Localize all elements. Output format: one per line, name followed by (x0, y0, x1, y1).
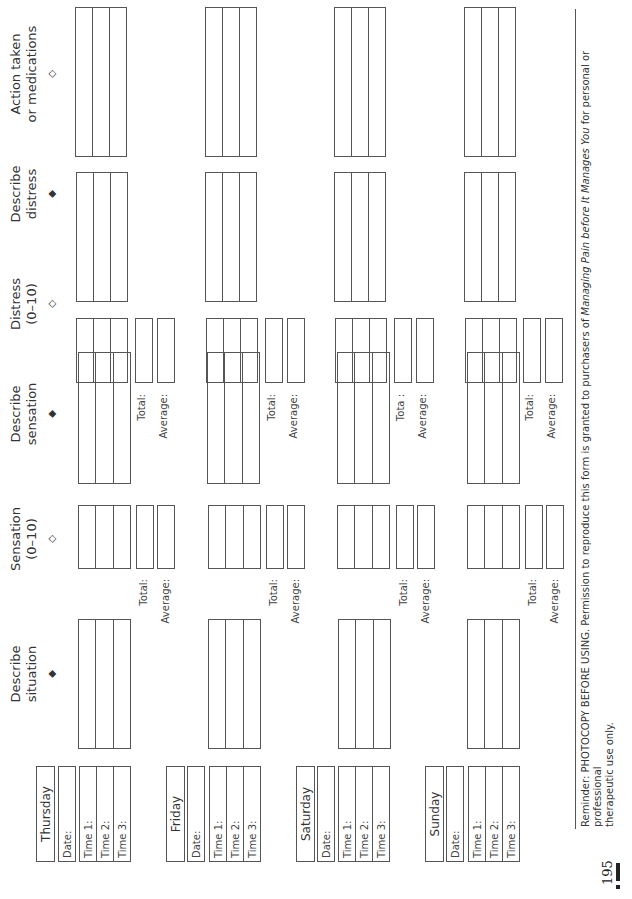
header-line1: Sensation (8, 499, 24, 579)
sensation-total-box[interactable] (525, 505, 543, 569)
distress-total-box[interactable] (394, 318, 412, 383)
time-fields: Time 1: Time 2: Time 3: (209, 766, 261, 862)
header-line1: Describe (8, 149, 24, 239)
sensation-total-label: Total: (138, 579, 149, 629)
date-field[interactable]: Date: (317, 766, 335, 862)
time-2-field[interactable]: Time 2: (485, 767, 502, 861)
describe-situation-boxes[interactable] (338, 619, 391, 749)
page-number: 195 (600, 860, 615, 885)
distress-total-label: Total: (266, 394, 277, 444)
footer-prefix: Reminder: PHOTOCOPY BEFORE USING. Permis… (580, 315, 591, 827)
sensation-total-label: Total: (268, 579, 279, 629)
page-marker-bar-icon (616, 863, 620, 881)
describe-distress-boxes[interactable] (334, 172, 386, 302)
header-line1: Describe (8, 629, 24, 719)
day-label: Friday (166, 766, 185, 862)
footer-notice: Reminder: PHOTOCOPY BEFORE USING. Permis… (580, 7, 616, 827)
distress-average-label: Average: (158, 394, 169, 444)
distress-total-box[interactable] (265, 318, 283, 383)
describe-distress-boxes[interactable] (205, 172, 257, 302)
distress-average-box[interactable] (545, 318, 563, 383)
time-3-field[interactable]: Time 3: (372, 767, 389, 861)
hollow-arrow-down-icon: ◇ (44, 499, 60, 579)
distress-total-label: Total: (136, 394, 147, 444)
action-taken-boxes[interactable] (205, 7, 257, 157)
day-label: Sunday (425, 766, 444, 862)
sensation-average-label: Average: (549, 579, 560, 629)
column-header-action-taken: Action taken or medications ◇ (8, 14, 60, 134)
solid-arrow-down-icon: ◆ (44, 629, 60, 719)
column-header-describe-sensation: Describe sensation ◆ (8, 369, 60, 459)
sensation-average-box[interactable] (287, 505, 305, 569)
action-taken-boxes[interactable] (334, 7, 386, 157)
distress-average-label: Average: (288, 394, 299, 444)
header-line2: (0–10) (24, 264, 40, 344)
describe-distress-boxes[interactable] (464, 172, 516, 302)
action-taken-boxes[interactable] (464, 7, 516, 157)
distress-total-label: Total: (524, 394, 535, 444)
distress-average-box[interactable] (416, 318, 434, 383)
sensation-total-label: Total: (527, 579, 538, 629)
time-fields: Time 1: Time 2: Time 3: (79, 766, 131, 862)
sensation-rating-boxes[interactable] (337, 505, 390, 569)
header-line1: Distress (8, 264, 24, 344)
hollow-arrow-down-icon: ◇ (44, 264, 60, 344)
time-fields: Time 1: Time 2: Time 3: (338, 766, 390, 862)
sensation-average-label: Average: (420, 579, 431, 629)
header-line2: or medications (24, 14, 40, 134)
time-2-field[interactable]: Time 2: (226, 767, 243, 861)
describe-situation-boxes[interactable] (208, 619, 261, 749)
distress-rating-boxes[interactable] (206, 318, 258, 383)
time-1-field[interactable]: Time 1: (210, 767, 226, 861)
distress-total-box[interactable] (135, 318, 153, 383)
header-line2: (0–10) (24, 499, 40, 579)
sensation-total-box[interactable] (266, 505, 284, 569)
distress-total-box[interactable] (523, 318, 541, 383)
distress-average-box[interactable] (287, 318, 305, 383)
distress-rating-boxes[interactable] (76, 318, 128, 383)
sensation-rating-boxes[interactable] (208, 505, 261, 569)
footer-line-1: Reminder: PHOTOCOPY BEFORE USING. Permis… (580, 7, 604, 827)
distress-rating-boxes[interactable] (335, 318, 387, 383)
distress-rating-boxes[interactable] (465, 318, 517, 383)
date-field[interactable]: Date: (58, 766, 76, 862)
describe-situation-boxes[interactable] (467, 619, 520, 749)
column-header-describe-situation: Describe situation ◆ (8, 629, 60, 719)
time-1-field[interactable]: Time 1: (80, 767, 96, 861)
sensation-average-box[interactable] (546, 505, 564, 569)
distress-average-box[interactable] (157, 318, 175, 383)
time-2-field[interactable]: Time 2: (96, 767, 113, 861)
time-3-field[interactable]: Time 3: (502, 767, 519, 861)
sensation-rating-boxes[interactable] (78, 505, 131, 569)
day-label: Saturday (296, 766, 315, 862)
describe-distress-boxes[interactable] (76, 172, 128, 302)
sensation-average-box[interactable] (157, 505, 175, 569)
distress-average-label: Average: (546, 394, 557, 444)
solid-arrow-down-icon: ◆ (44, 369, 60, 459)
sensation-total-box[interactable] (136, 505, 154, 569)
time-3-field[interactable]: Time 3: (113, 767, 130, 861)
header-line2: distress (24, 149, 40, 239)
date-field[interactable]: Date: (446, 766, 464, 862)
column-header-describe-distress: Describe distress ◆ (8, 149, 60, 239)
column-header-distress: Distress (0–10) ◇ (8, 264, 60, 344)
footer-divider (575, 9, 576, 829)
time-fields: Time 1: Time 2: Time 3: (468, 766, 520, 862)
action-taken-boxes[interactable] (75, 7, 127, 157)
distress-average-label: Average: (417, 394, 428, 444)
header-line2: sensation (24, 369, 40, 459)
footer-line-2: therapeutic use only. (604, 7, 616, 827)
date-field[interactable]: Date: (187, 766, 205, 862)
sensation-average-box[interactable] (417, 505, 435, 569)
header-line1: Describe (8, 369, 24, 459)
page-marker-dot-icon (616, 885, 620, 889)
describe-situation-boxes[interactable] (78, 619, 131, 749)
sensation-rating-boxes[interactable] (467, 505, 520, 569)
header-line1: Action taken (8, 14, 24, 134)
time-3-field[interactable]: Time 3: (243, 767, 260, 861)
sensation-total-box[interactable] (396, 505, 414, 569)
time-1-field[interactable]: Time 1: (339, 767, 355, 861)
rotated-form-page: Describe situation ◆ Sensation (0–10) ◇ … (0, 0, 632, 899)
time-2-field[interactable]: Time 2: (355, 767, 372, 861)
time-1-field[interactable]: Time 1: (469, 767, 485, 861)
